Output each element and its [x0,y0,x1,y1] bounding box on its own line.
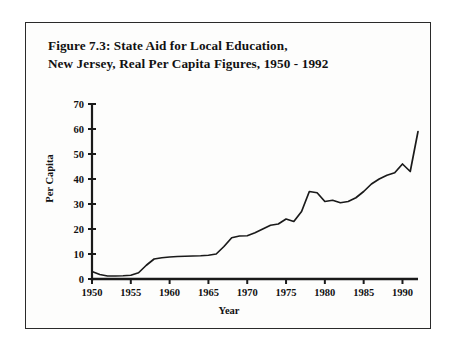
y-tick-label: 60 [74,124,85,135]
y-tick-label: 20 [74,224,85,235]
y-tick-label: 0 [79,274,84,285]
y-tick-label: 40 [74,174,85,185]
x-tick-label: 1975 [276,287,297,298]
x-tick-label: 1985 [353,287,374,298]
x-tick-label: 1990 [392,287,413,298]
figure-frame: Figure 7.3: State Aid for Local Educatio… [25,22,431,329]
x-tick-label: 1970 [237,287,258,298]
chart-plot-area: Per Capita Year 010203040506070195019551… [26,23,432,330]
y-tick-label: 50 [74,149,85,160]
x-tick-label: 1965 [198,287,219,298]
line-chart: 0102030405060701950195519601965197019751… [26,23,432,330]
x-tick-label: 1960 [159,287,180,298]
y-tick-label: 30 [74,199,85,210]
y-tick-label: 10 [74,249,85,260]
x-tick-label: 1950 [82,287,103,298]
x-tick-label: 1955 [120,287,141,298]
y-tick-label: 70 [74,99,85,110]
x-tick-label: 1980 [314,287,335,298]
data-series-line [92,132,418,277]
